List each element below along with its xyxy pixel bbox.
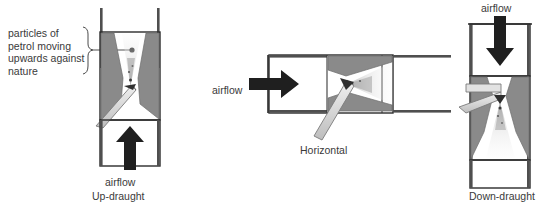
annotation-particles-text: particles of petrol moving upwards again… — [8, 27, 86, 77]
venturi-wall-right — [138, 33, 159, 119]
panel-up-draught — [83, 8, 160, 170]
label-airflow-horizontal: airflow — [212, 84, 242, 97]
panel-horizontal — [249, 55, 451, 140]
label-airflow-up: airflow — [105, 176, 135, 189]
arrow-up-icon — [116, 126, 144, 170]
caption-horizontal: Horizontal — [300, 144, 347, 157]
caption-up-draught: Up-draught — [92, 190, 145, 203]
arrow-right-icon — [249, 70, 299, 98]
figure-canvas: particles of petrol moving upwards again… — [0, 0, 556, 212]
panel-down-draught — [459, 16, 532, 188]
caption-down-draught: Down-draught — [469, 190, 535, 203]
label-airflow-down: airflow — [481, 2, 511, 15]
